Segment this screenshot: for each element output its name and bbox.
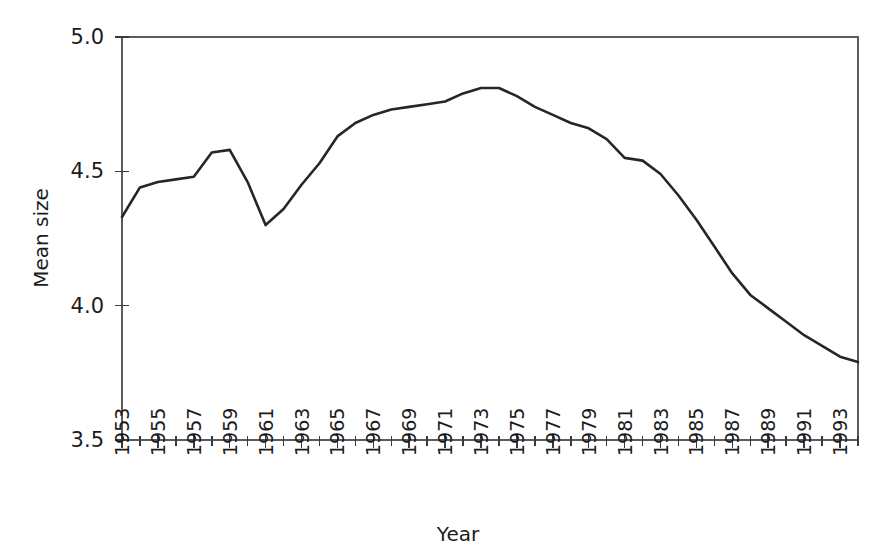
x-tick-label: 1959	[219, 408, 241, 456]
chart-figure: 3.54.04.55.0 195319551957195919611963196…	[0, 0, 887, 559]
x-tick-label: 1955	[147, 408, 169, 456]
y-tick-label: 3.5	[71, 428, 104, 452]
x-axis-tick-labels: 1953195519571959196119631965196719691971…	[111, 408, 851, 456]
x-tick-label: 1965	[326, 408, 348, 456]
plot-frame	[122, 37, 858, 440]
data-line-0	[122, 88, 858, 362]
x-tick-label: 1971	[434, 408, 456, 456]
axis-titles: Mean size Year	[29, 188, 480, 546]
x-tick-label: 1981	[614, 408, 636, 456]
y-axis-title: Mean size	[29, 188, 53, 288]
x-tick-label: 1983	[650, 408, 672, 456]
y-tick-label: 4.0	[71, 294, 104, 318]
x-tick-label: 1991	[793, 408, 815, 456]
x-tick-label: 1969	[398, 408, 420, 456]
x-tick-label: 1977	[542, 408, 564, 456]
x-tick-label: 1987	[721, 408, 743, 456]
y-tick-label: 4.5	[71, 159, 104, 183]
x-tick-label: 1953	[111, 408, 133, 456]
x-tick-label: 1979	[578, 408, 600, 456]
x-axis-title: Year	[436, 522, 480, 546]
x-tick-label: 1989	[757, 408, 779, 456]
x-tick-label: 1973	[470, 408, 492, 456]
x-tick-label: 1985	[685, 408, 707, 456]
x-tick-label: 1975	[506, 408, 528, 456]
y-axis-tick-labels: 3.54.04.55.0	[71, 25, 104, 452]
x-tick-label: 1961	[255, 408, 277, 456]
x-tick-label: 1957	[183, 408, 205, 456]
x-tick-label: 1993	[829, 408, 851, 456]
x-tick-label: 1967	[362, 408, 384, 456]
data-series-group	[122, 88, 858, 362]
x-tick-label: 1963	[291, 408, 313, 456]
y-tick-label: 5.0	[71, 25, 104, 49]
line-chart: 3.54.04.55.0 195319551957195919611963196…	[0, 0, 887, 559]
